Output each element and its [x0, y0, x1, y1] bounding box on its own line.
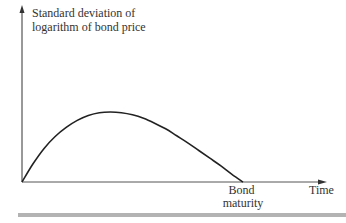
xtick-label-line-2: maturity: [223, 196, 264, 210]
y-axis-arrow-icon: [20, 5, 25, 13]
chart: Standard deviation of logarithm of bond …: [0, 0, 346, 223]
y-axis-label-line-1: Standard deviation of: [32, 6, 135, 20]
bottom-rule: [18, 213, 346, 217]
xtick-label-line-1: Bond: [228, 183, 254, 197]
svg-text:Standard deviation of loga: Standard deviation of logarithm of bond …: [32, 6, 146, 34]
x-axis-label: Time: [309, 183, 334, 197]
series-line-0: [22, 112, 243, 182]
y-axis-label-line-2: logarithm of bond price: [32, 20, 146, 34]
svg-text:Bond maturity: Bond maturity: [223, 183, 264, 210]
